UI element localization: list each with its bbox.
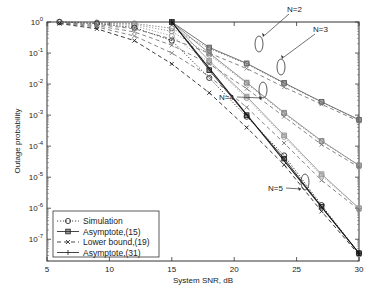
x-tick-label: 10 [105,265,114,274]
svg-text:N=4: N=4 [219,93,234,102]
y-tick-label: 10-1 [29,47,44,58]
y-axis-label: Outage probability [13,109,22,174]
svg-text:N=2: N=2 [287,5,302,14]
legend-label: Lower bound,(19) [83,237,150,247]
svg-text:N=5: N=5 [268,184,283,193]
x-axis-label: System SNR, dB [173,276,233,285]
x-tick-label: 15 [167,265,176,274]
y-tick-label: 10-5 [29,171,44,182]
legend: SimulationAsymptote,(15)Lower bound,(19)… [53,211,159,258]
y-tick-label: 10-3 [29,109,44,120]
legend-label: Asymptote,(31) [83,248,141,258]
y-tick-label: 10-6 [29,202,44,213]
y-tick-label: 10-4 [29,140,44,151]
x-tick-label: 20 [230,265,239,274]
x-tick-label: 30 [355,265,364,274]
svg-text:N=3: N=3 [313,25,328,34]
y-tick-label: 10-7 [29,233,44,244]
y-tick-label: 100 [31,16,44,27]
x-tick-label: 5 [45,265,50,274]
legend-label: Asymptote,(15) [83,227,141,237]
legend-label: Simulation [83,216,123,226]
y-tick-label: 10-2 [29,78,44,89]
outage-probability-chart: 10010-110-210-310-410-510-610-7 51015202… [0,0,381,295]
x-tick-label: 25 [292,265,301,274]
